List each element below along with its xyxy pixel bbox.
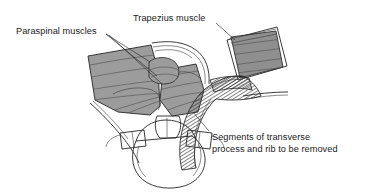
caption-line-1: Segments of transverse	[212, 132, 310, 142]
figure-canvas: Paraspinal muscles Trapezius muscle Segm…	[0, 0, 371, 194]
caption-line-2: process and rib to be removed	[212, 144, 338, 154]
anatomical-figure: Paraspinal muscles Trapezius muscle Segm…	[0, 0, 371, 194]
label-trapezius-muscle: Trapezius muscle	[133, 13, 205, 23]
label-paraspinal-muscles: Paraspinal muscles	[16, 26, 97, 36]
central-paraspinal-bundle	[149, 58, 179, 85]
